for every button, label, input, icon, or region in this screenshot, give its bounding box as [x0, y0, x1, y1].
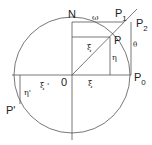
label-omega: ω — [92, 13, 99, 22]
label-theta: θ — [133, 41, 137, 49]
label-xi-upper: ξ — [87, 43, 92, 52]
label-P0: P0 — [134, 71, 146, 87]
label-P: P — [114, 34, 121, 46]
label-eta: η — [112, 53, 117, 62]
label-P-prime: P' — [6, 104, 15, 116]
label-N: N — [68, 8, 76, 20]
diagram-canvas: N 0 P P0 P1 P2 P' ω ξ ξ η ξ ' η' θ — [0, 0, 152, 145]
diagonal-line — [72, 9, 137, 75]
label-P1: P1 — [115, 7, 127, 23]
label-xi-prime: ξ ' — [40, 81, 49, 90]
label-xi-lower: ξ — [88, 79, 93, 88]
label-O: 0 — [61, 76, 67, 88]
label-P2: P2 — [136, 17, 148, 33]
label-eta-prime: η' — [24, 88, 31, 97]
